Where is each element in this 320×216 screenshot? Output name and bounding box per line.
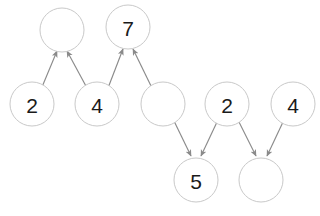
graph-edge-down — [201, 122, 217, 156]
node-label: 4 — [287, 94, 299, 117]
node-label: 2 — [221, 94, 233, 117]
graph-node-7[interactable]: 7 — [106, 5, 150, 49]
diagram-canvas: 724245 — [0, 0, 320, 216]
graph-edge-up — [42, 51, 57, 87]
graph-node-empty[interactable] — [239, 158, 283, 202]
node-label: 5 — [190, 170, 202, 193]
node-circle[interactable] — [40, 8, 84, 52]
node-label: 7 — [122, 17, 134, 40]
graph-node-2[interactable]: 2 — [205, 82, 249, 126]
graph-node-2[interactable]: 2 — [10, 82, 54, 126]
graph-node-4[interactable]: 4 — [75, 82, 119, 126]
node-circle[interactable] — [239, 158, 283, 202]
graph-node-4[interactable]: 4 — [271, 82, 315, 126]
nodes-layer: 724245 — [10, 5, 315, 202]
node-label: 4 — [91, 94, 103, 117]
graph-edge-down — [174, 121, 191, 156]
graph-svg: 724245 — [0, 0, 320, 216]
graph-edge-down — [267, 122, 283, 156]
graph-edge-up — [108, 49, 123, 88]
graph-edge-up — [67, 51, 87, 88]
node-label: 2 — [26, 94, 38, 117]
node-circle[interactable] — [141, 82, 185, 126]
graph-edge-up — [133, 49, 152, 88]
graph-node-empty[interactable] — [40, 8, 84, 52]
graph-node-empty[interactable] — [141, 82, 185, 126]
graph-node-5[interactable]: 5 — [174, 158, 218, 202]
graph-edge-down — [239, 122, 256, 156]
